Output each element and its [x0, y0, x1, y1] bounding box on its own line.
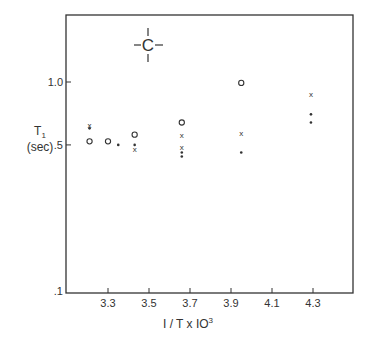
cross-marker: x [180, 131, 184, 140]
y-axis-ticks: .1.51.0 [48, 76, 71, 297]
circle-marker [87, 139, 92, 144]
x-tick-label: 3.5 [141, 297, 156, 309]
x-axis-label-sup: 3 [209, 316, 213, 325]
circle-marker [239, 80, 244, 85]
dot-marker [310, 121, 313, 124]
x-axis-label: I / T x IO3 [163, 316, 213, 331]
y-tick-label: 1.0 [48, 76, 63, 88]
dot-marker [240, 151, 243, 154]
circle-marker [105, 139, 110, 144]
circle-marker [132, 132, 137, 137]
x-axis-label-text: I / T x IO [163, 317, 209, 331]
x-tick-label: 3.9 [223, 297, 238, 309]
cross-marker: x [180, 143, 184, 152]
x-axis-ticks: 3.33.53.73.94.14.3 [100, 288, 320, 309]
x-tick-label: 4.3 [305, 297, 320, 309]
cross-marker: x [309, 90, 313, 99]
y-axis-label-sub: 1 [41, 131, 45, 140]
x-tick-label: 3.3 [100, 297, 115, 309]
y-axis-label: T1 (sec) [22, 124, 58, 154]
dot-marker [117, 144, 120, 147]
annotation-c-letter: C [142, 36, 154, 55]
scatter-plot: 3.33.53.73.94.14.3 .1.51.0 xxxxxx C [0, 0, 374, 338]
cross-marker: x [239, 129, 243, 138]
y-tick-label: .1 [54, 285, 63, 297]
dot-marker [181, 151, 184, 154]
dot-marker [181, 155, 184, 158]
dot-marker [133, 144, 136, 147]
x-tick-label: 4.1 [264, 297, 279, 309]
plot-frame [66, 15, 353, 293]
data-points: xxxxxx [87, 80, 313, 158]
circle-marker [179, 120, 184, 125]
dot-marker [310, 113, 313, 116]
y-axis-unit: (sec) [27, 140, 54, 154]
dot-marker [88, 127, 91, 130]
x-tick-label: 3.7 [182, 297, 197, 309]
